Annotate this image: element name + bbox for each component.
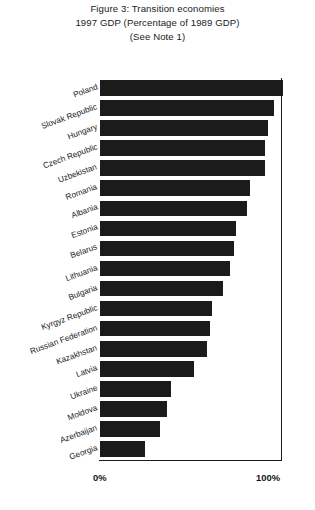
category-label-ukraine: Ukraine [69,383,99,401]
bar-azerbaijan [100,421,160,437]
bar-fill [100,80,283,96]
category-label-azerbaijan: Azerbaijan [59,423,98,445]
bar-fill [100,160,265,176]
bar-kyrgyz-republic [100,301,212,317]
category-label-estonia: Estonia [70,223,99,241]
x-axis-baseline [99,460,282,461]
category-label-belarus: Belarus [69,243,98,261]
bar-georgia [100,441,145,457]
bar-fill [100,140,265,156]
bar-fill [100,100,274,116]
hundred-percent-reference-line [281,78,282,461]
plot-area [100,78,281,460]
bar-fill [100,341,207,357]
bar-fill [100,120,268,136]
bar-fill [100,261,230,277]
category-label-latvia: Latvia [75,363,99,379]
bar-fill [100,421,160,437]
bar-fill [100,381,171,397]
chart-root: Figure 3: Transition economies 1997 GDP … [0,0,315,510]
chart-title: Figure 3: Transition economies 1997 GDP … [0,2,315,44]
category-label-hungary: Hungary [66,122,98,141]
category-label-albania: Albania [70,203,99,221]
category-label-poland: Poland [71,82,98,99]
x-tick-label-0: 0% [93,472,107,483]
bar-latvia [100,361,194,377]
category-label-lithuania: Lithuania [64,263,98,283]
bar-belarus [100,241,234,257]
bar-fill [100,361,194,377]
bar-fill [100,281,223,297]
bar-russian-federation [100,321,210,337]
chart-title-line-1: Figure 3: Transition economies [0,2,315,16]
category-label-georgia: Georgia [68,443,98,461]
bar-moldova [100,401,167,417]
bar-fill [100,321,210,337]
bar-czech-republic [100,140,265,156]
bar-hungary [100,120,268,136]
bar-ukraine [100,381,171,397]
bar-estonia [100,221,236,237]
bar-fill [100,241,234,257]
bar-bulgaria [100,281,223,297]
bar-fill [100,301,212,317]
bar-fill [100,180,250,196]
bar-uzbekistan [100,160,265,176]
category-label-romania: Romania [65,183,99,203]
bar-albania [100,201,247,217]
bar-fill [100,401,167,417]
bar-poland [100,80,283,96]
category-label-uzbekistan: Uzbekistan [57,163,98,185]
chart-title-line-2: 1997 GDP (Percentage of 1989 GDP) [0,16,315,30]
bar-fill [100,201,247,217]
category-label-bulgaria: Bulgaria [67,283,98,302]
category-label-kazakhstan: Kazakhstan [55,343,98,366]
bar-kazakhstan [100,341,207,357]
bar-fill [100,441,145,457]
bar-lithuania [100,261,230,277]
bar-fill [100,221,236,237]
bar-romania [100,180,250,196]
category-label-moldova: Moldova [66,403,98,422]
x-tick-label-100: 100% [256,472,280,483]
chart-title-line-3: (See Note 1) [0,30,315,44]
bar-slovak-republic [100,100,274,116]
